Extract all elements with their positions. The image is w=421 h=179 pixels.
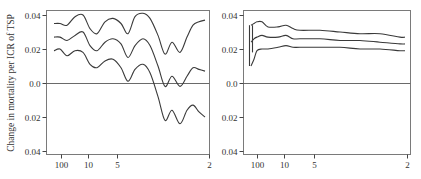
right-y-tick-label: 0.04 xyxy=(222,11,238,21)
left-y-tick-label: 0.0 xyxy=(29,79,41,89)
right-panel: 0.040.020.00.020.04 1001052 xyxy=(222,11,411,170)
left-x-tick-label: 10 xyxy=(84,160,94,170)
right-plot-frame xyxy=(244,11,411,155)
right-x-tick-label: 10 xyxy=(280,160,290,170)
right-y-axis: 0.040.020.00.020.04 xyxy=(222,11,244,157)
left-y-tick-label: 0.02 xyxy=(25,45,41,55)
chart-canvas: Change in mortality per ICR of TSP 0.040… xyxy=(0,0,421,179)
right-x-axis: 1001052 xyxy=(251,155,410,170)
left-plot-frame xyxy=(47,11,210,155)
left-x-tick-label: 5 xyxy=(115,160,120,170)
left-x-tick-label: 100 xyxy=(55,160,69,170)
left-x-tick-label: 2 xyxy=(207,160,212,170)
y-axis-label: Change in mortality per ICR of TSP xyxy=(6,14,16,152)
right-y-tick-label: 0.04 xyxy=(222,147,238,157)
right-curve-estimate xyxy=(251,35,405,44)
left-panel: 0.040.020.00.020.04 1001052 xyxy=(25,11,212,170)
left-y-axis: 0.040.020.00.020.04 xyxy=(25,11,47,157)
right-y-tick-label: 0.02 xyxy=(222,113,238,123)
right-curve-lower-bound xyxy=(251,46,405,66)
left-curve-estimate xyxy=(54,32,205,87)
left-curve-lower-bound xyxy=(54,49,205,124)
right-y-tick-label: 0.0 xyxy=(226,79,238,89)
left-curves xyxy=(54,13,205,124)
right-curve-upper-bound xyxy=(251,21,405,37)
right-curves xyxy=(250,21,406,66)
left-y-tick-label: 0.02 xyxy=(25,113,41,123)
right-x-tick-label: 100 xyxy=(251,160,265,170)
right-x-tick-label: 5 xyxy=(312,160,317,170)
left-y-tick-label: 0.04 xyxy=(25,11,41,21)
right-y-tick-label: 0.02 xyxy=(222,45,238,55)
left-y-tick-label: 0.04 xyxy=(25,147,41,157)
right-x-tick-label: 2 xyxy=(405,160,410,170)
left-x-axis: 1001052 xyxy=(55,155,212,170)
